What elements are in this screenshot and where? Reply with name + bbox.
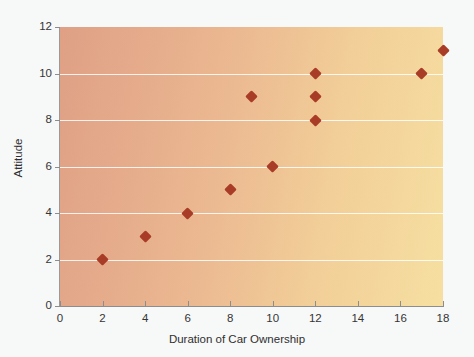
x-tick-mark [230,301,231,306]
x-tick-label: 16 [380,312,420,324]
gridline-y [60,260,443,261]
x-tick-label: 18 [423,312,463,324]
x-tick-mark [60,301,61,306]
y-tick-label: 10 [0,68,52,79]
x-tick-mark [315,301,316,306]
y-tick-mark [55,120,60,121]
y-tick-label: 6 [0,161,52,172]
y-tick-mark [55,213,60,214]
x-tick-mark [400,301,401,306]
gridline-y [60,74,443,75]
x-tick-label: 4 [125,312,165,324]
x-tick-label: 12 [295,312,335,324]
x-tick-mark [145,301,146,306]
y-tick-label: 0 [0,300,52,311]
gridline-y [60,167,443,168]
x-axis-title: Duration of Car Ownership [0,333,474,345]
y-tick-mark [55,74,60,75]
x-axis-line [59,306,444,307]
gridline-y [60,213,443,214]
gridline-y [60,120,443,121]
y-axis-title: Attitude [12,118,24,198]
x-tick-label: 2 [83,312,123,324]
y-tick-mark [55,167,60,168]
x-tick-label: 8 [210,312,250,324]
x-tick-mark [188,301,189,306]
x-tick-label: 0 [40,312,80,324]
y-tick-label: 4 [0,207,52,218]
x-tick-label: 14 [338,312,378,324]
x-tick-mark [273,301,274,306]
y-tick-mark [55,27,60,28]
y-tick-label: 8 [0,114,52,125]
y-tick-label: 2 [0,254,52,265]
y-tick-mark [55,306,60,307]
y-tick-label: 12 [0,21,52,32]
plot-area [60,27,443,306]
x-tick-label: 6 [168,312,208,324]
x-tick-mark [443,301,444,306]
x-tick-mark [358,301,359,306]
scatter-chart: Attitude Duration of Car Ownership 02468… [0,0,474,357]
y-tick-mark [55,260,60,261]
x-tick-mark [103,301,104,306]
x-tick-label: 10 [253,312,293,324]
